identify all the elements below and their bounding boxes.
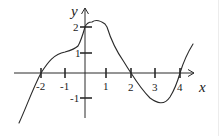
function-graph: -2 -1 1 2 3 4 2 1 -1 y x	[0, 0, 220, 136]
x-axis-label: x	[198, 79, 206, 95]
x-tick-label: 2	[128, 81, 134, 93]
plot-area: -2 -1 1 2 3 4 2 1 -1 y x	[0, 0, 220, 136]
y-axis	[82, 8, 89, 118]
x-tick-label: 4	[177, 81, 183, 93]
x-tick-label: 3	[152, 81, 158, 93]
y-axis-label: y	[69, 3, 78, 19]
x-tick-label: 1	[103, 80, 109, 92]
x-tick-label: -1	[60, 80, 69, 92]
right-edge-border	[218, 0, 219, 136]
y-tick-label: 2	[73, 21, 79, 33]
x-tick-label: -2	[36, 80, 45, 92]
y-tick-label: -1	[70, 92, 79, 104]
y-tick-label: 1	[75, 47, 81, 59]
